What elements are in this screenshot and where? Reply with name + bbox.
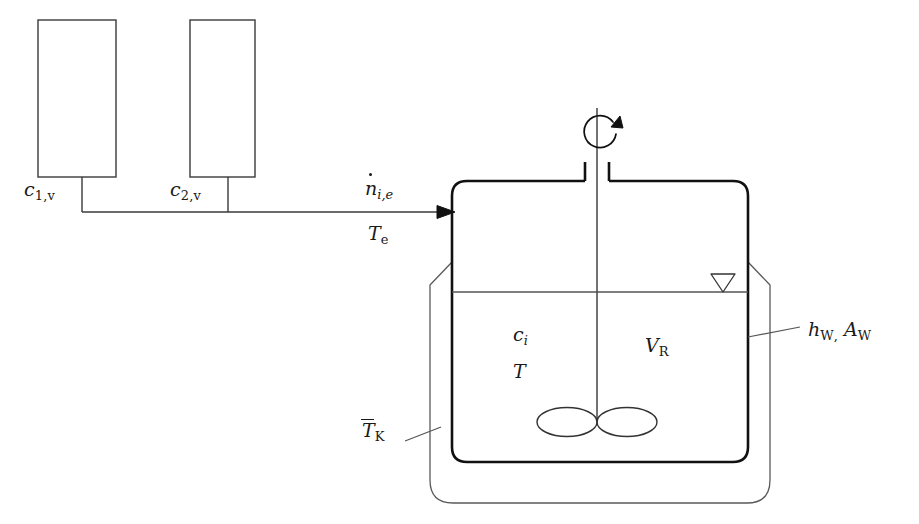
inlet-temperature-sub: e	[381, 232, 389, 247]
wall-transfer-h-base: h	[808, 318, 820, 340]
reactor-volume-label: VR	[645, 336, 669, 358]
jacket-temperature-label: TK	[362, 420, 385, 443]
reactor-concentration-label: ci	[513, 325, 528, 347]
reactor-concentration-base: c	[513, 323, 524, 345]
wall-transfer-leader	[748, 327, 800, 337]
impeller-blade-right	[597, 408, 657, 437]
feed-tank-2	[190, 20, 255, 177]
cstr-process-diagram: c1,v c2,v ni,e Te ci T VR TK hW, AW	[0, 0, 919, 524]
wall-transfer-label: hW, AW	[808, 320, 871, 342]
inlet-temperature-base: T	[368, 222, 381, 244]
reactor-temperature-label: T	[513, 362, 526, 381]
reactor-temperature-base: T	[513, 360, 526, 382]
feed-tank-2-label-base: c	[170, 178, 181, 200]
feed-tank-1-label-sub: 1,v	[35, 188, 55, 203]
feed-tank-1-label-base: c	[24, 178, 35, 200]
feed-tank-2-label-sub: 2,v	[181, 188, 201, 203]
wall-transfer-a-sub: W	[858, 328, 872, 343]
reactor-volume-sub: R	[659, 344, 669, 359]
cooling-jacket-shell	[430, 262, 770, 503]
reactor-volume-base: V	[645, 334, 659, 356]
level-indicator-triangle	[711, 274, 735, 292]
inlet-molar-flow-base: n	[365, 179, 377, 198]
inlet-molar-flow-label: ni,e	[365, 179, 393, 201]
feed-tank-2-label: c2,v	[170, 180, 201, 202]
jacket-temperature-sub: K	[375, 429, 385, 444]
jacket-temperature-leader	[405, 427, 441, 441]
reactor-concentration-sub: i	[524, 333, 528, 348]
feed-tank-1-label: c1,v	[24, 180, 55, 202]
reactor-vessel-wall	[452, 181, 748, 462]
wall-transfer-a-base: A	[844, 318, 858, 340]
feed-tank-1	[38, 20, 116, 177]
inlet-molar-flow-sub: i,e	[377, 187, 393, 202]
impeller-blade-left	[537, 408, 597, 437]
stirrer-rotation-arrow-arc	[584, 116, 616, 148]
schematic-canvas	[0, 0, 919, 524]
wall-transfer-h-sub: W	[820, 328, 834, 343]
wall-transfer-separator: ,	[834, 328, 838, 343]
jacket-temperature-base: T	[362, 420, 375, 440]
inlet-temperature-label: Te	[368, 224, 389, 246]
